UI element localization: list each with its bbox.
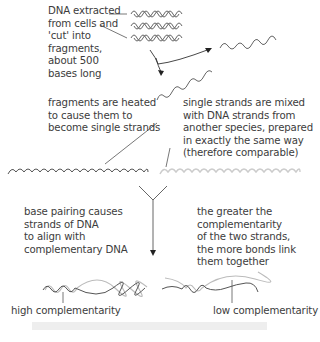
label-low-complementarity: low complementarity: [213, 305, 318, 318]
double-helix-fragments: [131, 11, 182, 41]
label-greater-complementarity: the greater the complementarity of the t…: [197, 206, 296, 269]
footer-bar: [32, 322, 267, 330]
label-high-complementarity: high complementarity: [11, 305, 121, 318]
label-dna-extracted: DNA extracted from cells and 'cut' into …: [48, 5, 121, 81]
label-mixed: single strands are mixed with DNA strand…: [183, 97, 313, 160]
merge-arrow: [139, 186, 167, 252]
arrowhead-down: [158, 70, 164, 76]
label-base-pairing: base pairing causes strands of DNA to al…: [24, 206, 128, 256]
arrowhead-merge-down: [150, 250, 156, 256]
separation-arrows: [150, 49, 210, 72]
hybrid-high: [43, 280, 147, 303]
single-strand-2: [157, 71, 212, 100]
species-b-strand: [160, 169, 300, 174]
single-strand-1: [220, 36, 276, 49]
species-a-strand: [8, 169, 148, 174]
label-heated: fragments are heated to cause them to be…: [48, 97, 160, 135]
hybrid-low: [162, 272, 271, 303]
